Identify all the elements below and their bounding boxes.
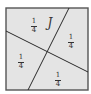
square-figure [0, 0, 91, 94]
numerator: 1 [19, 54, 23, 61]
denominator: 4 [69, 43, 73, 50]
region-label-j: J [48, 17, 53, 29]
fraction-bottom: 1 4 [55, 72, 61, 88]
denominator: 4 [32, 27, 36, 34]
numerator: 1 [56, 72, 60, 79]
denominator: 4 [19, 63, 23, 70]
fraction-top-left: 1 4 [31, 18, 37, 34]
denominator: 4 [56, 81, 60, 88]
diagram-canvas: J 1 4 1 4 1 4 1 4 [0, 0, 91, 94]
fraction-left: 1 4 [18, 54, 24, 70]
numerator: 1 [32, 18, 36, 25]
numerator: 1 [69, 34, 73, 41]
fraction-right: 1 4 [68, 34, 74, 50]
